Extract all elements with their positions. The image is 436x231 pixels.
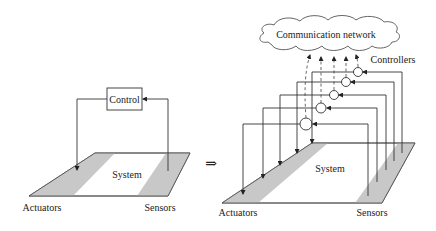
- left-actuators-label: Actuators: [23, 202, 62, 213]
- controllers-label: Controllers: [371, 54, 416, 65]
- sensor-line-1: [363, 72, 402, 153]
- network-label: Communication network: [276, 29, 376, 40]
- controller-2: [342, 78, 351, 87]
- right-diagram: Communication network Controllers: [219, 16, 416, 219]
- network-link-5: [305, 55, 310, 118]
- left-system-label: System: [112, 169, 142, 180]
- transform-arrow-icon: ⇒: [205, 156, 217, 171]
- diagram-canvas: Control System Actuators Sensors ⇒ Commu…: [0, 0, 436, 231]
- right-actuators-label: Actuators: [219, 207, 258, 218]
- right-sensors-label: Sensors: [356, 207, 387, 218]
- network-link-1: [356, 55, 358, 67]
- control-label: Control: [109, 94, 140, 105]
- controller-5: [300, 118, 312, 130]
- controller-nodes: [300, 68, 363, 131]
- controller-3: [330, 91, 339, 100]
- controller-4: [316, 103, 326, 113]
- right-system-label: System: [315, 163, 345, 174]
- network-links: [305, 55, 358, 118]
- left-sensors-label: Sensors: [144, 202, 175, 213]
- left-diagram: Control System Actuators Sensors: [23, 88, 190, 213]
- controller-1: [354, 68, 363, 77]
